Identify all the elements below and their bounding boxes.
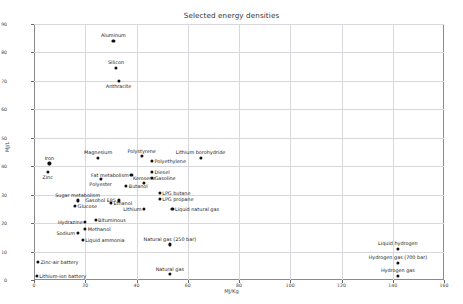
y-tick-mark [31,24,34,25]
data-point-label: Iron [45,156,54,161]
x-tick-label: 40 [134,283,140,288]
x-tick-label: 100 [286,283,295,288]
y-tick-mark [31,195,34,196]
data-point-label: Zinc-air battery [40,259,78,264]
data-point-label: Fat metabolism [91,172,129,177]
y-tick-label: 60 [1,107,7,112]
y-tick-label: 90 [1,22,7,27]
x-tick-label: 0 [33,283,36,288]
data-point-label: Liquid natural gas [175,206,219,211]
data-point-label: Bituminous [98,218,126,223]
data-point-label: LPG propane [162,196,193,201]
data-point-label: Polyester [89,182,112,187]
y-tick-mark [31,138,34,139]
x-tick-label: 140 [388,283,397,288]
data-point-label: Aluminum [101,34,126,39]
y-tick-mark [31,81,34,82]
plot-area: 0102030405060708090020406080100120140160… [34,24,444,280]
data-point-label: Anthracite [106,84,131,89]
x-tick-label: 120 [337,283,346,288]
y-tick-label: 0 [4,278,7,283]
chart-title: Selected energy densities [0,11,463,20]
data-point-label: Polystyrene [127,149,155,154]
x-tick-label: 60 [185,283,191,288]
y-tick-label: 20 [1,221,7,226]
data-point-label: Gasoline [154,175,175,180]
y-tick-mark [31,166,34,167]
y-tick-mark [31,109,34,110]
data-point-label: Sodium [57,231,75,236]
data-point-label: Kerosene [133,176,156,181]
data-point-label: Natural gas (250 bar) [144,237,197,242]
data-point-label: Hydrogen gas (700 bar) [369,255,427,260]
energy-density-scatter-chart: Selected energy densities MJ/L MJ/Kg 010… [0,0,463,304]
data-point-label: Natural gas [156,267,184,272]
y-tick-mark [31,252,34,253]
x-tick-label: 80 [236,283,242,288]
y-tick-label: 10 [1,249,7,254]
x-tick-label: 20 [82,283,88,288]
data-point-label: Zinc [42,175,53,180]
gridline-vertical [342,24,343,280]
data-point-label: Butanol [129,184,148,189]
data-point-label: Methanol [88,226,111,231]
data-point-label: Sugar metabolism [55,193,100,198]
x-axis-label: MJ/Kg [0,288,463,294]
y-tick-label: 40 [1,164,7,169]
data-point-label: Magnesium [84,150,112,155]
data-point-label: Liquid hydrogen [378,241,418,246]
y-tick-mark [31,52,34,53]
data-point-label: Glucose [78,204,98,209]
gridline-vertical [239,24,240,280]
gridline-vertical [290,24,291,280]
data-point-label: Liquid ammonia [85,238,124,243]
x-tick-label: 160 [440,283,449,288]
data-point-label: Polyethylene [154,158,185,163]
data-point-label: Lithium borohydride [176,150,225,155]
data-point-label: Silicon [108,61,124,66]
data-point-label: Hydrogen gas [381,268,415,273]
data-point-label: Lithium-ion battery [39,273,86,278]
y-tick-label: 50 [1,135,7,140]
data-point-label: Lithium [123,206,141,211]
y-tick-label: 70 [1,78,7,83]
y-tick-label: 80 [1,50,7,55]
y-tick-mark [31,223,34,224]
y-tick-label: 30 [1,192,7,197]
data-point-label: Hydrazine [58,219,83,224]
y-axis-label: MJ/L [4,142,10,152]
